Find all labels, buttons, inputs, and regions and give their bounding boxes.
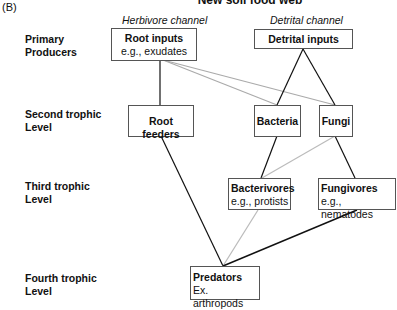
node-root-inputs: Root inputs e.g., exudates	[111, 28, 197, 61]
edge-root-inputs-to-fungi	[163, 60, 335, 105]
edge-root-inputs-to-bacteria	[163, 60, 277, 105]
edge-bacteria-to-bacterivores	[261, 136, 277, 178]
edge-bacterivores-to-predators	[223, 210, 258, 266]
node-detrital-inputs: Detrital inputs	[254, 29, 353, 49]
node-bacterivores: Bacterivores e.g., protists	[228, 178, 291, 210]
edge-root-feeders-to-predators	[161, 136, 223, 266]
edge-fungi-to-bacterivores	[262, 136, 335, 178]
node-fungivores: Fungivores e.g., nematodes	[318, 178, 396, 210]
node-root-feeders: Root feeders	[128, 105, 194, 137]
node-fungi: Fungi	[319, 105, 353, 137]
edge-detrital-to-fungi	[303, 49, 335, 105]
node-bacteria: Bacteria	[254, 105, 301, 137]
edge-detrital-to-bacteria	[277, 49, 303, 105]
node-predators: Predators Ex. arthropods	[190, 266, 260, 300]
edge-fungi-to-fungivores	[335, 136, 355, 178]
